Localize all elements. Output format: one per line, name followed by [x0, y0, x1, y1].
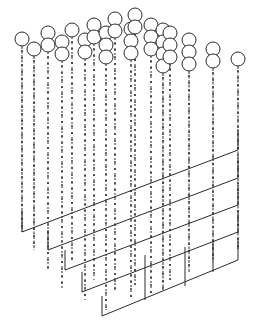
bead-dot — [114, 84, 116, 86]
bead-dot — [134, 157, 136, 159]
bead-dot — [188, 166, 190, 168]
bead-dot — [162, 287, 164, 289]
bead-dot — [188, 215, 190, 217]
bead-dot — [105, 243, 107, 245]
bead-dot — [237, 84, 239, 86]
bead-dot — [105, 278, 107, 280]
bead-dot — [105, 257, 107, 259]
bead-dot — [150, 186, 152, 188]
bead-dot — [237, 105, 239, 107]
bead-dot — [47, 161, 49, 163]
bead-dot — [61, 268, 63, 270]
bead-dot — [71, 251, 73, 253]
bead-dot — [188, 124, 190, 126]
bead-dot — [212, 107, 214, 109]
bead-dot — [93, 167, 95, 169]
bead-dot — [162, 154, 164, 156]
bead-dot — [130, 197, 132, 199]
bead-dot — [84, 63, 86, 65]
bead-dot — [114, 238, 116, 240]
bead-dot — [84, 259, 86, 261]
bead-dot — [21, 71, 23, 73]
bead-dot — [212, 93, 214, 95]
bead-dot — [33, 228, 35, 230]
bead-dot — [71, 237, 73, 239]
bead-dot — [150, 214, 152, 216]
bead-dot — [47, 266, 49, 268]
bead-dot — [71, 139, 73, 141]
bead-dot — [114, 140, 116, 142]
bead-dot — [162, 217, 164, 219]
bead-dot — [105, 306, 107, 308]
bead-dot — [114, 126, 116, 128]
bead-dot — [150, 249, 152, 251]
bead-dot — [71, 195, 73, 197]
bead-dot — [93, 62, 95, 64]
bead-dot — [169, 187, 171, 189]
bead-dot — [61, 93, 63, 95]
bead-dot — [71, 125, 73, 127]
bead-dot — [93, 118, 95, 120]
head-circle — [65, 23, 79, 37]
bead-dot — [162, 238, 164, 240]
bead-dot — [47, 224, 49, 226]
bead-dot — [84, 280, 86, 282]
bead-dot — [212, 198, 214, 200]
bead-dot — [84, 140, 86, 142]
bead-dot — [93, 97, 95, 99]
bead-dot — [212, 149, 214, 151]
bead-dot — [150, 151, 152, 153]
bead-dot — [169, 222, 171, 224]
bead-dot — [84, 161, 86, 163]
bead-dot — [33, 130, 35, 132]
bead-dot — [71, 244, 73, 246]
bead-dot — [93, 244, 95, 246]
bead-dot — [114, 273, 116, 275]
bead-dot — [47, 126, 49, 128]
bead-dot — [105, 89, 107, 91]
bead-dot — [71, 209, 73, 211]
bead-dot — [130, 183, 132, 185]
bead-dot — [84, 224, 86, 226]
bead-dot — [61, 107, 63, 109]
head-circle — [108, 24, 122, 38]
bead-dot — [71, 146, 73, 148]
bead-dot — [84, 217, 86, 219]
bead-dot — [21, 183, 23, 185]
bead-dot — [105, 292, 107, 294]
bead-dot — [105, 159, 107, 161]
bead-dot — [162, 91, 164, 93]
bead-dot — [134, 80, 136, 82]
bead-dot — [114, 133, 116, 135]
bead-dot — [169, 271, 171, 273]
bead-dot — [105, 264, 107, 266]
bead-dot — [162, 266, 164, 268]
bead-dot — [169, 208, 171, 210]
bead-dot — [33, 172, 35, 174]
head-circle — [55, 47, 69, 61]
bead-dot — [61, 177, 63, 179]
bead-dot — [134, 227, 136, 229]
bead-dot — [237, 182, 239, 184]
bead-dot — [130, 225, 132, 227]
bead-dot — [71, 104, 73, 106]
bead-dot — [21, 113, 23, 115]
bead-dot — [33, 137, 35, 139]
bead-dot — [188, 82, 190, 84]
bead-dot — [188, 110, 190, 112]
bead-dot — [188, 75, 190, 77]
bead-dot — [105, 208, 107, 210]
bead-dot — [188, 152, 190, 154]
bead-dot — [61, 65, 63, 67]
bead-dot — [105, 215, 107, 217]
bead-dot — [162, 140, 164, 142]
bead-dot — [150, 102, 152, 104]
bead-dot — [21, 162, 23, 164]
bead-dot — [61, 100, 63, 102]
bead-dot — [150, 270, 152, 272]
bead-dot — [130, 169, 132, 171]
bead-dot — [47, 105, 49, 107]
head-circle — [27, 42, 41, 56]
bead-dot — [47, 182, 49, 184]
bead-dot — [150, 116, 152, 118]
